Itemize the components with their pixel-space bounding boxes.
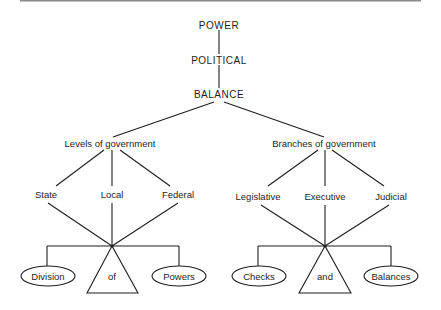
balance-scale-checks-and-balances: Checks and Balances (232, 244, 418, 293)
connector-levels-federal (120, 150, 170, 186)
label-checks: Checks (243, 271, 275, 282)
node-federal: Federal (162, 189, 194, 200)
connector-branches-judicial (332, 150, 384, 186)
scale-pivot (323, 244, 326, 247)
connector-judicial-scale (325, 205, 389, 246)
node-levels-of-government: Levels of government (65, 138, 156, 149)
scale-pivot (110, 244, 113, 247)
label-of: of (108, 271, 116, 282)
label-powers: Powers (163, 271, 195, 282)
balance-scale-division-of-powers: Division of Powers (21, 244, 206, 293)
connector-balance-levels (113, 102, 214, 137)
node-legislative: Legislative (236, 191, 281, 202)
node-branches-of-government: Branches of government (272, 138, 376, 149)
connector-federal-scale (112, 203, 178, 246)
node-judicial: Judicial (375, 191, 407, 202)
scale-fulcrum-triangle (299, 246, 351, 293)
scale-fulcrum-triangle (87, 246, 138, 293)
political-power-balance-diagram: POWER POLITICAL BALANCE Levels of govern… (0, 0, 441, 310)
node-power: POWER (199, 20, 239, 31)
label-division: Division (31, 271, 64, 282)
label-balances: Balances (371, 271, 410, 282)
node-balance: BALANCE (194, 89, 244, 100)
connector-levels-state (56, 150, 104, 186)
connector-balance-branches (224, 102, 324, 137)
connector-branches-legislative (268, 150, 318, 186)
connector-state-scale (48, 203, 112, 246)
node-state: State (35, 189, 57, 200)
node-political: POLITICAL (191, 55, 247, 66)
node-executive: Executive (304, 191, 345, 202)
node-local: Local (101, 189, 124, 200)
connector-legislative-scale (261, 205, 325, 246)
label-and: and (317, 271, 333, 282)
